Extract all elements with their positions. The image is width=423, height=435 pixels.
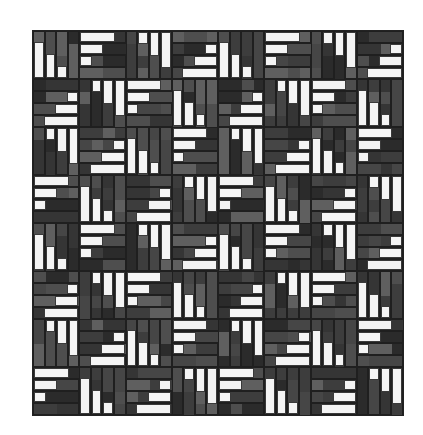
strip-shade xyxy=(219,332,229,356)
strip-shade xyxy=(138,296,161,306)
quilt-strip xyxy=(79,55,125,67)
strip-shade xyxy=(392,104,402,116)
quilt-strip xyxy=(195,175,207,223)
strip-shade xyxy=(323,248,333,260)
white-bar xyxy=(358,282,368,318)
strip-shade xyxy=(184,32,207,42)
strip-shade xyxy=(127,236,137,248)
strip-shade xyxy=(46,152,56,175)
quilt-block xyxy=(126,127,172,175)
strip-shade xyxy=(57,212,69,222)
white-bar xyxy=(288,402,298,414)
strip-shade xyxy=(335,92,347,102)
quilt-strip xyxy=(391,271,403,319)
quilt-strip xyxy=(79,163,125,175)
white-bar xyxy=(92,198,102,222)
quilt-strip xyxy=(264,343,310,355)
strip-shade xyxy=(312,188,324,198)
quilt-strip xyxy=(79,331,125,343)
white-bar xyxy=(312,272,347,282)
quilt-block xyxy=(218,271,264,319)
white-bar xyxy=(288,80,298,104)
white-bar xyxy=(254,320,264,356)
quilt-strip xyxy=(218,103,264,115)
quilt-strip xyxy=(218,187,264,199)
strip-shade xyxy=(196,332,218,342)
white-bar xyxy=(101,152,124,162)
quilt-strip xyxy=(126,271,172,283)
quilt-strip xyxy=(322,127,334,175)
quilt-strip xyxy=(218,31,230,79)
quilt-strip xyxy=(33,91,79,103)
quilt-strip xyxy=(357,355,403,367)
white-bar xyxy=(335,354,345,366)
strip-shade xyxy=(92,320,104,330)
white-bar xyxy=(265,32,300,42)
strip-shade xyxy=(288,236,310,246)
white-bar xyxy=(55,296,78,306)
quilt-block xyxy=(126,31,172,79)
strip-shade xyxy=(34,404,57,414)
white-bar xyxy=(358,320,393,330)
strip-shade xyxy=(173,368,183,392)
quilt-block xyxy=(218,79,264,127)
quilt-strip xyxy=(264,43,310,55)
white-bar xyxy=(34,200,46,210)
quilt-strip xyxy=(33,271,79,283)
quilt-strip xyxy=(33,31,45,79)
white-bar xyxy=(275,164,310,174)
quilt-strip xyxy=(218,127,230,175)
quilt-strip xyxy=(33,379,79,391)
strip-shade xyxy=(115,392,125,404)
white-bar xyxy=(346,32,356,68)
quilt-strip xyxy=(68,31,80,79)
white-bar xyxy=(173,140,196,150)
quilt-strip xyxy=(172,127,218,139)
quilt-strip xyxy=(79,235,125,247)
quilt-strip xyxy=(206,271,218,319)
quilt-strip xyxy=(206,79,218,127)
white-bar xyxy=(173,90,183,126)
white-bar xyxy=(277,80,287,92)
white-bar xyxy=(34,176,69,186)
strip-shade xyxy=(92,296,102,308)
white-bar xyxy=(265,236,288,246)
quilt-strip xyxy=(311,79,357,91)
quilt-strip xyxy=(102,271,114,319)
quilt-strip xyxy=(33,79,79,91)
quilt-strip xyxy=(79,259,125,271)
quilt-strip xyxy=(79,247,125,259)
white-bar xyxy=(90,164,125,174)
strip-shade xyxy=(161,344,171,356)
quilt-strip xyxy=(264,259,310,271)
quilt-strip xyxy=(287,175,299,223)
quilt-strip xyxy=(33,403,79,415)
strip-shade xyxy=(381,164,393,174)
quilt-strip xyxy=(357,319,403,331)
white-bar xyxy=(184,294,194,318)
strip-shade xyxy=(312,116,324,126)
quilt-strip xyxy=(160,31,172,79)
quilt-strip xyxy=(68,223,80,271)
white-bar xyxy=(205,44,217,54)
strip-shade xyxy=(103,128,115,138)
quilt-strip xyxy=(264,247,310,259)
strip-shade xyxy=(242,200,264,210)
quilt-strip xyxy=(68,127,80,175)
quilt-strip xyxy=(264,79,276,127)
strip-shade xyxy=(127,32,137,44)
quilt-strip xyxy=(68,319,80,367)
white-bar xyxy=(34,234,44,270)
white-bar xyxy=(240,296,263,306)
quilt-strip xyxy=(126,31,138,79)
quilt-strip xyxy=(45,127,57,175)
white-bar xyxy=(34,42,44,78)
white-bar xyxy=(265,186,275,222)
quilt-strip xyxy=(114,367,126,415)
quilt-block xyxy=(79,319,125,367)
white-bar xyxy=(103,210,113,222)
quilt-strip xyxy=(172,259,218,271)
quilt-strip xyxy=(218,379,264,391)
white-bar xyxy=(127,104,139,114)
quilt-strip xyxy=(91,271,103,319)
